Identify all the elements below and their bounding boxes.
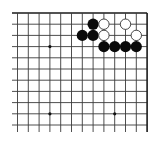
- black-stone: [88, 30, 99, 41]
- white-stone: [99, 19, 109, 29]
- go-board-diagram: [0, 0, 159, 142]
- star-point: [48, 112, 51, 115]
- black-stone: [98, 41, 109, 52]
- stones: [77, 19, 142, 53]
- black-stone: [88, 19, 99, 30]
- black-stone: [77, 30, 88, 41]
- black-stone: [109, 41, 120, 52]
- white-stone: [99, 30, 109, 40]
- black-stone: [131, 41, 142, 52]
- go-board: [0, 0, 159, 142]
- star-point: [113, 112, 116, 115]
- black-stone: [120, 41, 131, 52]
- white-stone: [120, 19, 130, 29]
- star-point: [48, 45, 51, 48]
- white-stone: [131, 30, 141, 40]
